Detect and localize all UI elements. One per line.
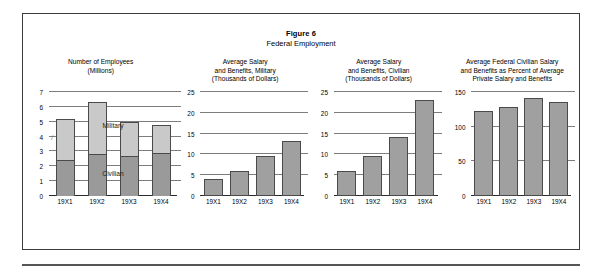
x-tick-label: 19X3 — [524, 198, 543, 205]
panel-title-4-line-1: Average Federal Civilian Salary — [449, 58, 575, 67]
panel-title-1-line-2: (Millions) — [27, 67, 174, 76]
y-tick-label: 0 — [39, 193, 43, 200]
bar-value[interactable] — [230, 171, 249, 196]
panel-title-3-line-3: (Thousands of Dollars) — [316, 75, 442, 84]
y-tick-label: 5 — [39, 118, 43, 125]
bar-value[interactable] — [415, 100, 434, 196]
bar-segment-military[interactable] — [56, 119, 75, 161]
plot-area-4: 050100150 19X119X219X319X4 — [471, 92, 571, 210]
bar-19X4[interactable] — [415, 92, 434, 196]
x-tick-label: 19X4 — [282, 198, 301, 205]
panel-title-2-line-1: Average Salary — [182, 58, 308, 67]
bar-19X4[interactable] — [152, 92, 171, 196]
bar-value[interactable] — [549, 102, 568, 196]
bars-2 — [200, 92, 304, 196]
panel-title-4-line-2: and Benefits as Percent of Average — [449, 67, 575, 76]
x-tick-label: 19X2 — [499, 198, 518, 205]
y-tick-label: 5 — [191, 172, 195, 179]
y-tick-label: 0 — [191, 193, 195, 200]
panel-title-2-line-3: (Thousands of Dollars) — [182, 75, 308, 84]
bar-value[interactable] — [337, 171, 356, 196]
y-tick-label: 10 — [321, 151, 328, 158]
bar-19X3[interactable] — [524, 92, 543, 196]
bar-value[interactable] — [474, 111, 493, 196]
axis-area-3: 0510152025 — [334, 92, 438, 196]
bar-19X3[interactable] — [120, 92, 139, 196]
y-tick-label: 6 — [39, 103, 43, 110]
x-tick-label: 19X4 — [415, 198, 434, 205]
bar-19X1[interactable] — [56, 92, 75, 196]
y-tick-label: 15 — [321, 130, 328, 137]
y-tick-label: 20 — [321, 109, 328, 116]
bar-19X2[interactable] — [230, 92, 249, 196]
x-tick-label: 19X1 — [474, 198, 493, 205]
bars-3 — [334, 92, 438, 196]
chart-panels: Number of Employees (Millions) / 0123456… — [23, 58, 579, 243]
figure-title: Figure 6 Federal Employment — [23, 29, 579, 49]
axis-area-1: 01234567 Military Civilian — [49, 92, 177, 196]
x-tick-label: 19X3 — [389, 198, 408, 205]
y-tick-label: 3 — [39, 148, 43, 155]
y-tick-label: 10 — [187, 151, 194, 158]
panel-title-1-line-1: Number of Employees — [27, 58, 174, 67]
bar-value[interactable] — [499, 107, 518, 196]
plot-area-3: 0510152025 19X119X219X319X4 — [334, 92, 438, 210]
bars-4 — [471, 92, 571, 196]
bar-value[interactable] — [282, 141, 301, 196]
bar-value[interactable] — [524, 98, 543, 196]
x-tick-label: 19X2 — [363, 198, 382, 205]
x-tick-label: 19X4 — [549, 198, 568, 205]
bar-value[interactable] — [256, 156, 275, 196]
panel-title-3-line-1: Average Salary — [316, 58, 442, 67]
bar-19X4[interactable] — [282, 92, 301, 196]
figure-frame: Figure 6 Federal Employment Number of Em… — [22, 13, 580, 250]
x-tick-label: 19X2 — [230, 198, 249, 205]
bar-19X3[interactable] — [256, 92, 275, 196]
bar-19X4[interactable] — [549, 92, 568, 196]
bar-segment-civilian[interactable] — [56, 160, 75, 196]
figure-number: Figure 6 — [23, 29, 579, 38]
x-tick-label: 19X1 — [337, 198, 356, 205]
y-tick-label: 0 — [324, 193, 328, 200]
panel-title-2-line-2: and Benefits, Military — [182, 67, 308, 76]
x-tick-label: 19X2 — [88, 198, 107, 205]
bar-value[interactable] — [389, 137, 408, 196]
bar-value[interactable] — [204, 179, 223, 196]
chart-panel-military-salary: Average Salary and Benefits, Military (T… — [178, 58, 312, 243]
bar-19X1[interactable] — [337, 92, 356, 196]
y-tick-label: 20 — [187, 109, 194, 116]
bars-1 — [49, 92, 177, 196]
x-axis-labels-3: 19X119X219X319X4 — [334, 196, 438, 210]
bar-19X1[interactable] — [474, 92, 493, 196]
figure-subtitle: Federal Employment — [23, 39, 579, 48]
y-tick-label: 15 — [187, 130, 194, 137]
x-axis-labels-4: 19X119X219X319X4 — [471, 196, 571, 210]
panel-title-2: Average Salary and Benefits, Military (T… — [178, 58, 312, 92]
plot-area-1: / 01234567 Military Civilian 19X119X219X… — [49, 92, 177, 210]
series-annotation-military: Military — [103, 122, 124, 129]
y-tick-label: 7 — [39, 89, 43, 96]
x-axis-labels-1: 19X119X219X319X4 — [49, 196, 177, 210]
bar-19X2[interactable] — [88, 92, 107, 196]
y-tick-label: 1 — [39, 178, 43, 185]
y-tick-label: 4 — [39, 133, 43, 140]
bar-segment-military[interactable] — [152, 125, 171, 152]
chart-panel-number-of-employees: Number of Employees (Millions) / 0123456… — [23, 58, 178, 243]
chart-panel-civilian-salary: Average Salary and Benefits, Civilian (T… — [312, 58, 446, 243]
bar-19X2[interactable] — [363, 92, 382, 196]
bar-19X1[interactable] — [204, 92, 223, 196]
plot-area-2: 0510152025 19X119X219X319X4 — [200, 92, 304, 210]
y-tick-label: 2 — [39, 163, 43, 170]
bar-19X3[interactable] — [389, 92, 408, 196]
y-tick-label: 5 — [324, 172, 328, 179]
y-tick-label: 0 — [462, 193, 466, 200]
bar-segment-civilian[interactable] — [152, 153, 171, 196]
page-bottom-rule — [22, 264, 580, 266]
axis-area-2: 0510152025 — [200, 92, 304, 196]
bar-value[interactable] — [363, 156, 382, 196]
y-tick-label: 100 — [455, 123, 466, 130]
x-tick-label: 19X1 — [56, 198, 75, 205]
series-annotation-civilian: Civilian — [102, 170, 123, 177]
bar-19X2[interactable] — [499, 92, 518, 196]
panel-title-3: Average Salary and Benefits, Civilian (T… — [312, 58, 446, 92]
